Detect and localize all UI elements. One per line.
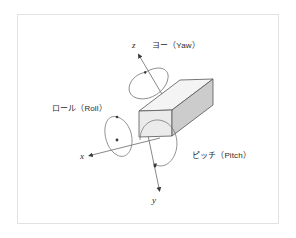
axis-label-z: z <box>132 41 136 50</box>
rectangular-box <box>139 79 213 137</box>
label-yaw: ヨー（Yaw） <box>152 42 200 50</box>
axis-line-x <box>92 138 160 155</box>
label-roll: ロール（Roll） <box>52 105 107 113</box>
label-pitch: ピッチ（Pitch） <box>192 152 251 160</box>
pierce-dot-roll <box>116 139 119 142</box>
box-front-face <box>139 110 172 137</box>
pierce-dot-pitch <box>154 165 157 168</box>
diagram-canvas <box>0 0 296 238</box>
diagram-root: ヨー（Yaw） ロール（Roll） ピッチ（Pitch） z x y <box>0 0 296 238</box>
axis-label-y: y <box>152 196 156 205</box>
axis-pierce-dots <box>116 139 157 168</box>
axis-label-x: x <box>80 152 84 161</box>
